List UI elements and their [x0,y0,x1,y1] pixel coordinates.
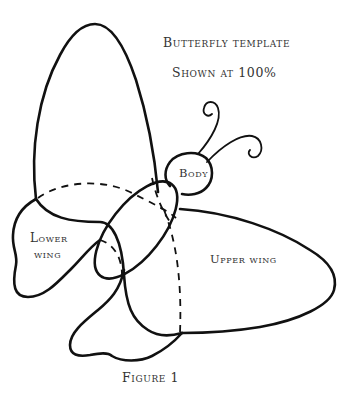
antenna-right [207,136,261,162]
upper-wing-outline [180,209,335,333]
lower-wing-label-line1: Lower [30,232,68,244]
top-wing-base-curve [36,199,182,335]
body-label: Body [179,168,208,180]
butterfly-template-page: Butterfly template Shown at 100% Body Lo… [0,0,351,394]
template-title: Butterfly template [163,37,290,50]
top-wing-outline [34,24,158,199]
butterfly-outline-drawing [0,0,351,394]
antenna-left [198,102,219,154]
dashed-top-wing-base [38,183,176,218]
thorax-ellipse [80,168,192,291]
dashed-upper-wing-edge [164,210,180,333]
upper-wing-label: Upper wing [210,254,277,266]
figure-caption: Figure 1 [122,372,179,385]
lower-wing-label-line2: wing [34,249,61,260]
template-scale-note: Shown at 100% [172,67,276,80]
